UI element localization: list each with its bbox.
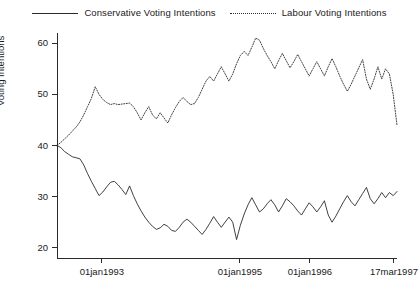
y-axis-tick-label: 50 (37, 89, 48, 99)
x-axis-tick-labels: 01jan199301jan199501jan199617mar1997 (0, 266, 419, 282)
legend-key-dotted-line-icon (230, 13, 276, 14)
y-axis-tick-label: 40 (37, 141, 48, 151)
x-axis-tick-label: 01jan1993 (80, 266, 124, 277)
y-axis-tick-label: 60 (37, 38, 48, 48)
y-axis-tick-label: 30 (37, 192, 48, 202)
legend-entry-labour: Labour Voting Intentions (230, 8, 387, 18)
y-axis-tick-labels: 2030405060 (0, 0, 52, 293)
chart-legend: Conservative Voting Intentions Labour Vo… (0, 4, 419, 22)
x-axis-tick-label: 17mar1997 (370, 266, 418, 277)
axis-lines (52, 33, 397, 263)
plot-svg (57, 33, 397, 258)
x-axis-tick-label: 01jan1995 (218, 266, 262, 277)
plot-area (57, 33, 397, 258)
y-axis-tick-label: 20 (37, 243, 48, 253)
legend-label-labour: Labour Voting Intentions (282, 8, 387, 18)
legend-entry-conservative: Conservative Voting Intentions (32, 8, 215, 18)
voting-intentions-chart: Conservative Voting Intentions Labour Vo… (0, 0, 419, 293)
series-line-conservative (57, 146, 397, 240)
x-axis-tick-label: 01jan1996 (288, 266, 332, 277)
series-line-labour (57, 38, 397, 145)
legend-label-conservative: Conservative Voting Intentions (84, 8, 215, 18)
